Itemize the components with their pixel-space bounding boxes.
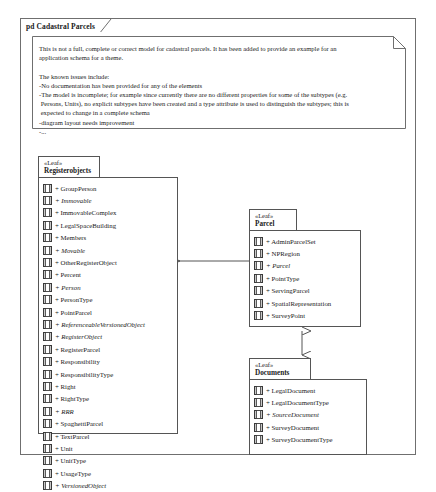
package-documents[interactable]: «Leaf» Documents + LegalDocument+ LegalD…	[249, 358, 367, 450]
package-item[interactable]: + SurveyDocument	[254, 421, 363, 433]
package-item[interactable]: + RRR	[43, 405, 174, 417]
package-item-label: + Unit	[55, 444, 73, 453]
package-item[interactable]: + UnitType	[43, 455, 174, 467]
package-item[interactable]: + TextParcel	[43, 430, 174, 442]
package-item[interactable]: + LegalDocument	[254, 384, 363, 396]
package-parcel-stereotype: «Leaf»	[255, 212, 290, 220]
package-item[interactable]: + PointType	[254, 272, 357, 284]
package-element-icon	[43, 370, 52, 379]
package-element-icon	[43, 320, 52, 329]
package-item[interactable]: + Percent	[43, 269, 174, 281]
package-item[interactable]: + Unit	[43, 442, 174, 454]
package-item-label: + RightType	[55, 394, 89, 403]
package-item[interactable]: + LegalSpaceBuilding	[43, 219, 174, 231]
package-item-label: + ImmovableComplex	[55, 208, 116, 217]
package-item-label: + UnitType	[55, 456, 86, 465]
package-item[interactable]: + SourceDocument	[254, 409, 363, 421]
package-element-icon	[254, 261, 263, 270]
package-item[interactable]: + SpaghettiParcel	[43, 417, 174, 429]
package-element-icon	[43, 208, 52, 217]
package-element-icon	[43, 357, 52, 366]
diagram-tab-underline	[21, 32, 122, 34]
package-parcel-body: + AdminParcelSet+ NPRegion+ Parcel+ Poin…	[249, 230, 361, 327]
package-item-label: + Right	[55, 382, 76, 391]
package-item-label: + SpaghettiParcel	[55, 419, 103, 428]
package-element-icon	[43, 283, 52, 292]
package-registerobjects-name: Registerobjects	[44, 167, 93, 176]
package-item[interactable]: + ReferenceableVersionedObject	[43, 318, 174, 330]
package-item[interactable]: + AdminParcelSet	[254, 235, 357, 247]
diagram-note-text: This is not a full, complete or correct …	[39, 44, 396, 136]
package-documents-header[interactable]: «Leaf» Documents	[249, 358, 311, 380]
package-item-label: + NPRegion	[266, 249, 300, 258]
package-element-icon	[254, 249, 263, 258]
package-item-label: + PointType	[266, 274, 299, 283]
package-parcel-header[interactable]: «Leaf» Parcel	[249, 209, 297, 231]
package-item[interactable]: + Person	[43, 281, 174, 293]
package-item[interactable]: + GroupPerson	[43, 182, 174, 194]
package-item[interactable]: + SurveyDocumentType	[254, 434, 363, 446]
package-item[interactable]: + UsageType	[43, 467, 174, 479]
package-item[interactable]: + Parcel	[254, 260, 357, 272]
package-item[interactable]: + ServingParcel	[254, 285, 357, 297]
package-element-icon	[43, 258, 52, 267]
package-item-label: + PointParcel	[55, 308, 92, 317]
package-item[interactable]: + Movable	[43, 244, 174, 256]
package-item-label: + SurveyDocument	[266, 423, 319, 432]
package-element-icon	[43, 481, 52, 490]
package-item-label: + ServingParcel	[266, 286, 310, 295]
package-item[interactable]: + PointParcel	[43, 306, 174, 318]
diagram-title-tab[interactable]: pd Cadastral Parcels	[20, 18, 99, 33]
package-element-icon	[254, 423, 263, 432]
package-registerobjects[interactable]: «Leaf» Registerobjects + GroupPerson+ Im…	[38, 156, 178, 434]
package-item[interactable]: + Members	[43, 232, 174, 244]
package-item[interactable]: + Responsibility	[43, 355, 174, 367]
package-element-icon	[43, 382, 52, 391]
package-item[interactable]: + PersonType	[43, 294, 174, 306]
package-registerobjects-header[interactable]: «Leaf» Registerobjects	[38, 156, 100, 178]
package-item[interactable]: + Immovable	[43, 194, 174, 206]
package-item-label: + LegalSpaceBuilding	[55, 221, 116, 230]
package-item[interactable]: + ResponsibilityType	[43, 368, 174, 380]
package-item[interactable]: + VersionedObject	[43, 479, 174, 491]
package-parcel-items: + AdminParcelSet+ NPRegion+ Parcel+ Poin…	[254, 235, 357, 322]
package-element-icon	[43, 444, 52, 453]
package-element-icon	[254, 237, 263, 246]
package-item-label: + Percent	[55, 270, 81, 279]
package-element-icon	[43, 233, 52, 242]
package-item[interactable]: + Right	[43, 380, 174, 392]
package-element-icon	[43, 394, 52, 403]
package-item-label: + GroupPerson	[55, 184, 96, 193]
package-element-icon	[43, 295, 52, 304]
package-item[interactable]: + RightType	[43, 393, 174, 405]
package-element-icon	[43, 456, 52, 465]
package-item-label: + Members	[55, 233, 86, 242]
package-item[interactable]: + NPRegion	[254, 247, 357, 259]
package-item-label: + UsageType	[55, 469, 91, 478]
package-parcel[interactable]: «Leaf» Parcel + AdminParcelSet+ NPRegion…	[249, 209, 361, 327]
diagram-title-label: pd Cadastral Parcels	[26, 22, 95, 31]
package-registerobjects-body: + GroupPerson+ Immovable+ ImmovableCompl…	[38, 177, 178, 434]
package-item-label: + RRR	[55, 407, 74, 416]
package-documents-name: Documents	[255, 369, 304, 378]
package-item[interactable]: + RegisterObject	[43, 331, 174, 343]
package-item-label: + ResponsibilityType	[55, 370, 113, 379]
package-documents-stereotype: «Leaf»	[255, 361, 304, 369]
package-item-label: + SurveyPoint	[266, 311, 305, 320]
package-item[interactable]: + SpatialRepresentation	[254, 297, 357, 309]
package-parcel-name: Parcel	[255, 220, 290, 229]
package-element-icon	[254, 299, 263, 308]
package-item[interactable]: + SurveyPoint	[254, 309, 357, 321]
package-item[interactable]: + RegisterParcel	[43, 343, 174, 355]
package-item-label: + PersonType	[55, 295, 93, 304]
package-item-label: + ReferenceableVersionedObject	[55, 320, 145, 329]
package-item-label: + Parcel	[266, 261, 290, 270]
package-item-label: + SpatialRepresentation	[266, 299, 331, 308]
package-item[interactable]: + OtherRegisterObject	[43, 256, 174, 268]
package-item[interactable]: + ImmovableComplex	[43, 207, 174, 219]
package-item[interactable]: + LegalDocumentType	[254, 396, 363, 408]
package-element-icon	[43, 196, 52, 205]
connector-parcel-documents[interactable]	[296, 327, 308, 359]
package-element-icon	[43, 270, 52, 279]
package-documents-body: + LegalDocument+ LegalDocumentType+ Sour…	[249, 379, 367, 455]
